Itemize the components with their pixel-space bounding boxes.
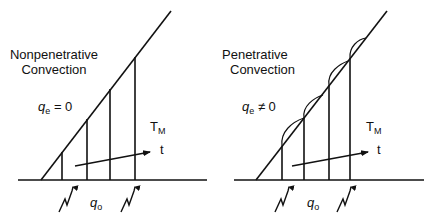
heat-flux-arrow-icon [59, 187, 73, 212]
entrainment-flux-label: qe ≠ 0 [242, 99, 276, 119]
o-subscript: o [314, 202, 319, 212]
e-subscript: e [45, 106, 50, 116]
t-symbol: T [366, 119, 374, 134]
title-line-1: Penetrative [222, 47, 295, 62]
surface-flux-label: qo [90, 195, 102, 215]
time-label: t [377, 142, 381, 157]
e-subscript: e [249, 106, 254, 116]
surface-flux-label: qo [307, 195, 319, 215]
entrainment-flux-label: qe = 0 [38, 99, 72, 119]
m-subscript: M [158, 126, 166, 136]
panel-title-penetrative: Penetrative Convection [222, 47, 295, 77]
t-symbol: T [150, 119, 158, 134]
m-subscript: M [374, 126, 382, 136]
relation: = 0 [54, 99, 72, 114]
heat-flux-arrow-icon [337, 187, 351, 212]
title-line-1: Nonpenetrative [6, 47, 102, 62]
relation: ≠ 0 [258, 99, 276, 114]
title-line-2: Convection [222, 62, 295, 77]
mixed-layer-temperature-label: TM [150, 119, 165, 139]
time-label: t [160, 142, 164, 157]
panel-title-nonpenetrative: Nonpenetrative Convection [6, 47, 102, 77]
mixed-layer-temperature-label: TM [366, 119, 381, 139]
title-line-2: Convection [6, 62, 102, 77]
o-subscript: o [97, 202, 102, 212]
heat-flux-arrow-icon [275, 187, 289, 212]
inversion-profile-line [41, 11, 171, 180]
heat-flux-arrow-icon [121, 187, 135, 212]
